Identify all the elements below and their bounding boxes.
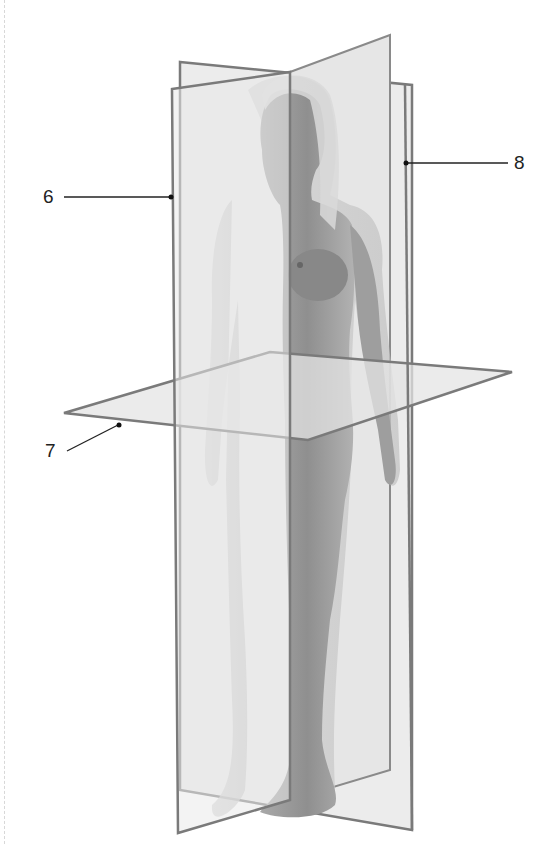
body-planes-illustration	[0, 0, 549, 844]
label-6-sagittal-plane: 6	[43, 187, 54, 206]
leader-line-6	[64, 195, 174, 200]
sagittal-plane-front	[172, 72, 290, 833]
label-7-transverse-plane: 7	[45, 441, 56, 460]
label-8-frontal-plane: 8	[514, 153, 525, 172]
leader-line-8	[404, 161, 509, 166]
leader-line-7	[67, 423, 122, 452]
